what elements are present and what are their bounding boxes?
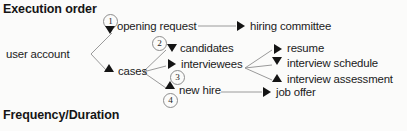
diagram-canvas: Execution order Frequency/Duration user … (0, 0, 407, 131)
arrowhead-interviewees (168, 59, 176, 69)
arrowhead-candidates (167, 44, 177, 52)
step-badge-4: 4 (163, 93, 178, 108)
step-badge-2: 2 (152, 36, 167, 51)
arrowhead-cases (104, 64, 114, 72)
node-interview-schedule[interactable]: interview schedule (287, 57, 378, 69)
arrowhead-resume (274, 44, 282, 54)
node-job-offer[interactable]: job offer (276, 86, 316, 98)
node-opening-request[interactable]: opening request (117, 20, 196, 32)
node-user-account[interactable]: user account (6, 48, 69, 60)
node-hiring-committee[interactable]: hiring committee (250, 20, 331, 32)
node-interviewees[interactable]: interviewees (181, 58, 243, 70)
arrowhead-interview-schedule (272, 57, 282, 65)
node-new-hire[interactable]: new hire (179, 84, 221, 96)
node-cases[interactable]: cases (118, 65, 147, 77)
node-interview-assessment[interactable]: interview assessment (287, 73, 393, 85)
connector-user-to-opening-request (91, 33, 112, 54)
connector-interviewees-to-interview-assessment (245, 68, 272, 80)
node-candidates[interactable]: candidates (180, 42, 234, 54)
node-resume[interactable]: resume (287, 42, 324, 54)
arrowhead-hiring-committee (237, 21, 245, 31)
arrowhead-opening-request (105, 26, 115, 34)
arrowhead-job-offer (263, 87, 271, 97)
arrowhead-interview-assessment (272, 74, 282, 82)
arrowhead-new-hire (165, 81, 175, 89)
